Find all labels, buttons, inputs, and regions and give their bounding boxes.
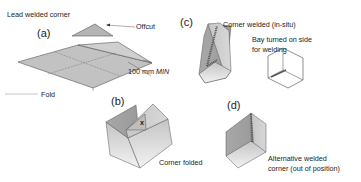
welded-corner-insitu [199, 23, 231, 83]
panel-label-c: (c) [180, 16, 193, 28]
fold-label: Fold [41, 91, 55, 99]
dimension-label: 100 mm MIN [128, 68, 169, 76]
bay-note-line2: for welding [252, 46, 287, 54]
diagram-title: Lead welded corner [7, 11, 70, 19]
caption-d-line1: Alternative welded [268, 155, 327, 163]
panel-label-a: (a) [37, 27, 50, 39]
caption-b: Corner folded [159, 159, 203, 167]
marker-x: x [140, 119, 144, 127]
lead-welded-corner-diagram: Lead welded corner (a) Offcut 100 mm MIN… [0, 0, 361, 182]
offcut-label: Offcut [136, 23, 155, 31]
panel-label-b: (b) [111, 95, 124, 107]
offcut-piece [72, 24, 135, 37]
panel-label-d: (d) [227, 99, 240, 111]
bay-note-line1: Bay turned on side [252, 36, 312, 44]
welded-corner-alternative [226, 113, 266, 168]
caption-d-line2: corner (out of position) [268, 165, 340, 173]
caption-c: Corner welded (in-situ) [223, 21, 296, 29]
